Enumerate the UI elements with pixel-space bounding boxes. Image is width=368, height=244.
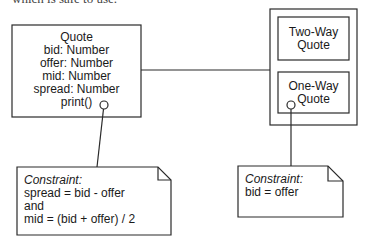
- two-way-quote-label: Quote: [278, 39, 349, 52]
- quote-operation: print(): [12, 96, 141, 109]
- left-note-line: mid = (bid + offer) / 2: [24, 213, 135, 226]
- right-note-line: bid = offer: [245, 186, 298, 199]
- one-way-quote-label: Quote: [278, 93, 349, 106]
- note-connector-left: [97, 109, 104, 167]
